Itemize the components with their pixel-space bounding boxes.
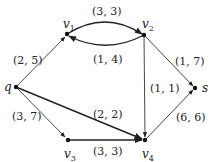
node-label-q: q bbox=[4, 81, 12, 93]
edge-label-q-v1: (2, 5) bbox=[13, 55, 43, 66]
node-label-v2-base: v bbox=[142, 17, 149, 31]
edge-label-q-v4: (2, 2) bbox=[93, 109, 123, 120]
node-label-v2-sub: 2 bbox=[149, 24, 154, 33]
edge-v2-v4 bbox=[144, 35, 145, 137]
edge-v1-v2 bbox=[67, 22, 142, 34]
node-v3 bbox=[66, 138, 70, 142]
node-q bbox=[14, 85, 18, 89]
node-label-v2: v2 bbox=[142, 18, 154, 33]
graph-edges bbox=[0, 0, 212, 162]
node-label-v3: v3 bbox=[64, 148, 76, 162]
node-label-v1: v1 bbox=[63, 18, 75, 33]
edge-label-v3-v4: (3, 3) bbox=[93, 146, 123, 157]
node-s bbox=[193, 86, 197, 90]
node-label-v3-base: v bbox=[64, 147, 71, 161]
node-label-v4-base: v bbox=[142, 147, 149, 161]
node-label-v4: v4 bbox=[142, 148, 154, 162]
flow-network-diagram: q v1 v2 s v3 v4 (2, 5) (3, 3) (1, 4) (1,… bbox=[0, 0, 212, 162]
node-label-v4-sub: 4 bbox=[149, 154, 154, 162]
node-label-v1-sub: 1 bbox=[70, 24, 75, 33]
edge-label-q-v3: (3, 7) bbox=[12, 111, 42, 122]
node-v2 bbox=[142, 33, 146, 37]
edge-label-v4-s: (6, 6) bbox=[176, 112, 206, 123]
node-v4 bbox=[143, 138, 147, 142]
edge-v2-v1 bbox=[69, 35, 144, 45]
edge-label-v1-v2: (3, 3) bbox=[92, 6, 122, 17]
node-label-s: s bbox=[202, 82, 208, 94]
edge-label-v2-v1: (1, 4) bbox=[93, 54, 123, 65]
node-label-v1-base: v bbox=[63, 17, 70, 31]
edge-label-v2-v4: (1, 1) bbox=[150, 83, 180, 94]
edge-label-v2-s: (1, 7) bbox=[175, 56, 205, 67]
node-label-v3-sub: 3 bbox=[71, 154, 76, 162]
